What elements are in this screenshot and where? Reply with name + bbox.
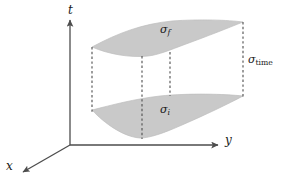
y-axis-label: y: [225, 134, 232, 146]
sigma-glyph: σ: [160, 23, 168, 36]
x-axis-label: x: [6, 160, 13, 172]
sigma-f-subscript: f: [168, 28, 171, 37]
time-extent-label: σtime: [248, 54, 273, 66]
sigma-glyph: σ: [160, 103, 168, 116]
t-axis-label: t: [68, 4, 73, 16]
initial-slice-label: σi: [160, 104, 170, 117]
spacetime-diagram-figure: t y x σf σi σtime: [0, 0, 291, 187]
final-slice-label: σf: [160, 24, 170, 37]
sigma-time-subscript: time: [256, 58, 273, 67]
x-axis-line: [23, 145, 70, 172]
sigma-i-subscript: i: [168, 108, 171, 117]
sigma-glyph: σ: [248, 53, 256, 66]
diagram-canvas: [0, 0, 291, 187]
